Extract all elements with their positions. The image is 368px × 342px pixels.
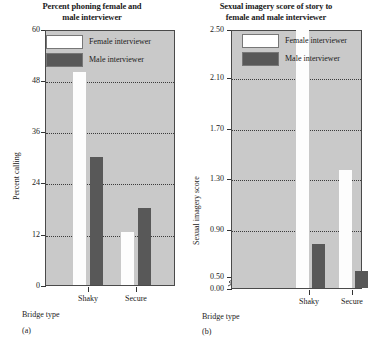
chart-a-title: Percent phoning female and male intervie… — [0, 1, 184, 23]
chart-b-ytick-label-170: 1.70 — [194, 125, 224, 133]
chart-a-panel-label: (a) — [22, 326, 31, 335]
legend-swatch-male-icon — [242, 52, 279, 66]
chart-b-ytick-label-210: 2.10 — [194, 74, 224, 82]
chart-panel-a: Percent phoning female and male intervie… — [0, 0, 184, 342]
chart-b-bar-shaky-male — [312, 244, 325, 288]
chart-b-xcat-shaky: Shaky — [289, 297, 329, 306]
chart-b-title-line2: female and male interviewer — [226, 12, 326, 22]
chart-b-ytick-label-250: 2.50 — [194, 26, 224, 34]
chart-b-x-axis-title: Bridge type — [202, 312, 368, 321]
chart-b-title: Sexual imagery score of story to female … — [184, 1, 368, 23]
legend-swatch-female-icon — [242, 34, 279, 48]
chart-b-y-axis-title: Sexual imagery score — [192, 176, 201, 245]
legend-swatch-male-icon — [46, 53, 83, 67]
chart-a-xtick-shaky — [88, 287, 89, 292]
chart-a-bar-secure-male — [138, 208, 151, 285]
chart-b-bar-secure-female — [339, 170, 352, 288]
chart-a-ytick-0 — [41, 286, 46, 287]
chart-b-xtick-secure — [352, 290, 353, 295]
chart-b-xtick-shaky — [309, 290, 310, 295]
chart-b-bar-secure-male — [355, 271, 368, 288]
chart-a-bar-secure-female — [121, 232, 134, 285]
chart-a-ytick-label-12: 12 — [14, 231, 40, 239]
chart-b-title-line1: Sexual imagery score of story to — [220, 1, 333, 11]
chart-a-xcat-shaky: Shaky — [68, 294, 108, 303]
chart-b-ytick-label-130: 1.30 — [194, 175, 224, 183]
chart-a-title-line2: male interviewer — [62, 12, 122, 22]
chart-a-bar-shaky-female — [73, 72, 86, 285]
chart-a-legend-label-male: Male interviewer — [89, 55, 144, 64]
chart-a-ytick-label-36: 36 — [14, 128, 40, 136]
chart-panel-b: Sexual imagery score of story to female … — [184, 0, 368, 342]
chart-a-gridline-48 — [46, 82, 174, 83]
chart-a-ytick-label-0: 0 — [14, 282, 40, 290]
chart-b-ytick-label-090: 0.90 — [194, 226, 224, 234]
chart-a-legend-label-female: Female interviewer — [89, 37, 151, 46]
legend-swatch-female-icon — [46, 35, 83, 49]
chart-b-ytick-label-050: 0.50 — [194, 273, 224, 281]
figure-two-bar-charts: Percent phoning female and male intervie… — [0, 0, 368, 342]
chart-a-ytick-label-48: 48 — [14, 77, 40, 85]
chart-b-legend: Female interviewer Male interviewer — [242, 34, 368, 70]
chart-a-legend: Female interviewer Male interviewer — [46, 35, 174, 71]
chart-b-ytick-label-000: 0.00 — [194, 285, 224, 293]
chart-b-legend-label-male: Male interviewer — [285, 54, 340, 63]
chart-a-ytick-label-24: 24 — [14, 179, 40, 187]
chart-a-x-axis-title: Bridge type — [22, 310, 206, 319]
chart-a-gridline-24 — [46, 184, 174, 185]
chart-a-xtick-secure — [136, 287, 137, 292]
chart-b-ytick-000 — [227, 289, 232, 290]
chart-b-panel-label: (b) — [202, 327, 211, 336]
chart-a-ytick-label-60: 60 — [14, 26, 40, 34]
chart-a-gridline-12 — [46, 236, 174, 237]
chart-a-bar-shaky-male — [90, 157, 103, 285]
chart-b-legend-label-female: Female interviewer — [285, 36, 347, 45]
chart-a-y-axis-title: Percent calling — [12, 152, 21, 200]
chart-a-xcat-secure: Secure — [116, 294, 156, 303]
chart-b-plot-area: Female interviewer Male interviewer — [231, 30, 362, 289]
chart-b-xcat-secure: Secure — [332, 297, 368, 306]
chart-a-gridline-36 — [46, 133, 174, 134]
chart-a-plot-area: Female interviewer Male interviewer — [45, 30, 175, 286]
chart-a-title-line1: Percent phoning female and — [42, 1, 141, 11]
